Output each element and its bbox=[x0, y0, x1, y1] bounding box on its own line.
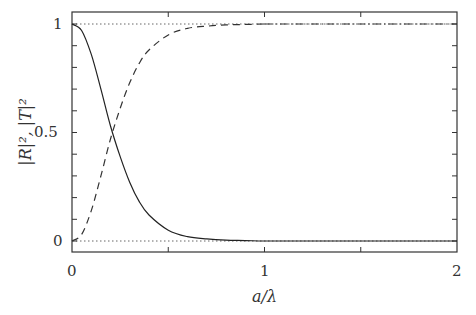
y-tick-label-0.5: 0.5 bbox=[34, 123, 58, 141]
x-axis-label: a/λ bbox=[252, 287, 277, 306]
y-axis-ticks bbox=[72, 24, 457, 241]
y-tick-label-1: 1 bbox=[53, 15, 63, 33]
series-T-squared-dashed bbox=[72, 24, 265, 241]
plot-frame bbox=[72, 12, 457, 252]
x-tick-label-2: 2 bbox=[452, 262, 462, 280]
x-axis-ticks bbox=[168, 12, 361, 252]
x-tick-label-0: 0 bbox=[67, 262, 77, 280]
y-axis-label: |R|², |T|² bbox=[16, 98, 35, 165]
chart: 1 0.5 0 0 1 2 a/λ |R|², |T|² bbox=[0, 0, 476, 315]
x-tick-label-1: 1 bbox=[260, 262, 270, 280]
y-tick-label-0: 0 bbox=[53, 232, 63, 250]
series-R-squared-solid bbox=[72, 24, 457, 241]
